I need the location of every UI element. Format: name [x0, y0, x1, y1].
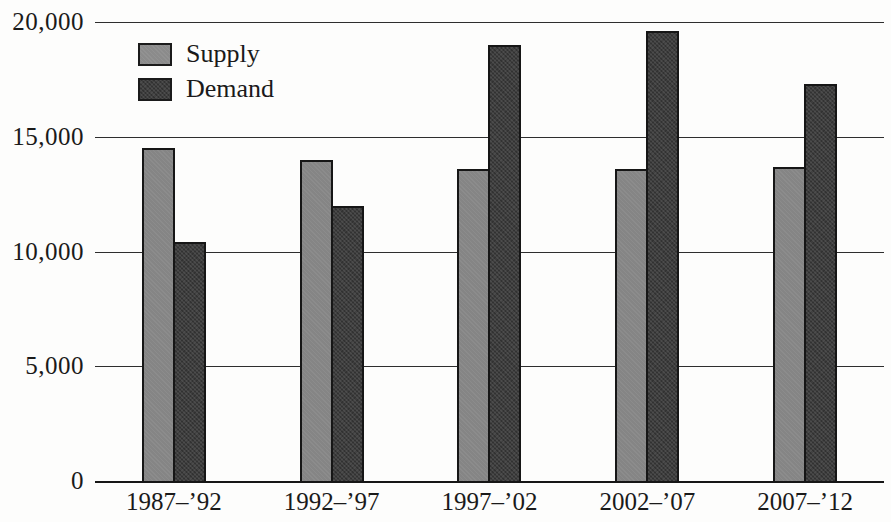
bar-group-2 [411, 22, 569, 481]
y-tick-label-5000: 5,000 [0, 351, 84, 381]
x-tick-label-4: 2007–’12 [726, 487, 884, 517]
legend: SupplyDemand [138, 40, 274, 110]
x-tick-label-3: 2002–’07 [568, 487, 726, 517]
x-axis-tick-labels: 1987–’921992–’971997–’022002–’072007–’12 [95, 487, 884, 517]
legend-label-demand: Demand [186, 75, 274, 103]
x-tick-label-2: 1997–’02 [411, 487, 569, 517]
bar-group-4 [726, 22, 884, 481]
legend-label-supply: Supply [186, 40, 260, 68]
supply-bar-2 [457, 169, 490, 481]
plot-area: SupplyDemand [95, 22, 884, 481]
supply-bar-4 [773, 167, 806, 481]
demand-bar-0 [173, 242, 206, 481]
bar-group-3 [568, 22, 726, 481]
y-tick-label-15000: 15,000 [0, 122, 84, 152]
legend-item-supply: Supply [138, 40, 274, 68]
legend-swatch-supply [138, 43, 172, 66]
supply-bar-0 [142, 148, 175, 481]
supply-demand-bar-chart: 05,00010,00015,00020,000 SupplyDemand 19… [0, 0, 891, 522]
bar-group-1 [253, 22, 411, 481]
demand-bar-2 [488, 45, 521, 481]
x-tick-label-0: 1987–’92 [95, 487, 253, 517]
legend-item-demand: Demand [138, 75, 274, 103]
demand-bar-1 [331, 206, 364, 481]
y-tick-label-10000: 10,000 [0, 237, 84, 267]
supply-bar-3 [615, 169, 648, 481]
x-axis-line [95, 481, 884, 483]
demand-bar-4 [804, 84, 837, 481]
supply-bar-1 [300, 160, 333, 481]
y-axis-tick-labels: 05,00010,00015,00020,000 [0, 0, 86, 522]
legend-swatch-demand [138, 78, 172, 101]
demand-bar-3 [646, 31, 679, 481]
y-tick-label-0: 0 [0, 466, 84, 496]
y-tick-label-20000: 20,000 [0, 7, 84, 37]
x-tick-label-1: 1992–’97 [253, 487, 411, 517]
